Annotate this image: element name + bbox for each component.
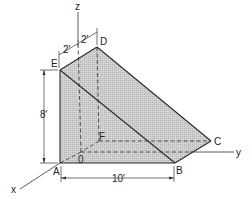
point-C-label: C <box>214 136 221 147</box>
wedge-shaded-body <box>60 47 211 163</box>
wedge-diagram: z y x D E F 0 A B C 8' 10' 2' 2' <box>0 0 252 199</box>
length-dimension-label: 10' <box>112 173 125 184</box>
offset-left-dimension-label: 2' <box>63 44 71 55</box>
z-axis-label: z <box>75 1 80 12</box>
point-F-label: F <box>99 131 105 142</box>
point-D-label: D <box>100 36 107 47</box>
height-dimension-label: 8' <box>40 109 48 120</box>
x-axis-label: x <box>11 184 16 195</box>
point-O-label: 0 <box>78 154 84 165</box>
y-axis-label: y <box>236 147 241 158</box>
point-B-label: B <box>176 165 183 176</box>
point-E-label: E <box>51 58 58 69</box>
point-A-label: A <box>53 166 60 177</box>
offset-right-dimension-label: 2' <box>81 34 89 45</box>
